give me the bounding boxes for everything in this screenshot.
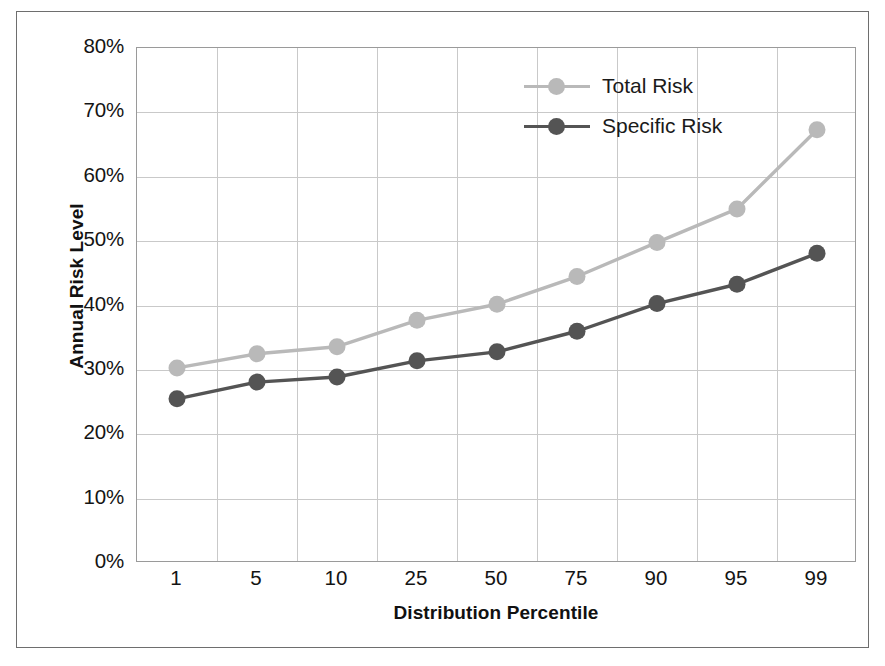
data-point-marker	[729, 200, 746, 217]
x-axis-tick-label: 5	[216, 566, 296, 590]
series-line	[177, 130, 817, 368]
x-axis-tick-label: 25	[376, 566, 456, 590]
data-point-marker	[649, 295, 666, 312]
data-point-marker	[249, 374, 266, 391]
y-axis-tick-label: 40%	[84, 292, 124, 316]
data-point-marker	[329, 368, 346, 385]
legend-label-specific-risk: Specific Risk	[602, 114, 722, 138]
legend-swatch-specific-risk	[524, 116, 590, 136]
series-line	[177, 253, 817, 398]
x-axis-tick-labels: 1510255075909599	[136, 566, 856, 600]
legend-swatch-total-risk	[524, 76, 590, 96]
data-point-marker	[809, 121, 826, 138]
x-axis-title: Distribution Percentile	[136, 602, 856, 624]
x-axis-tick-label: 90	[616, 566, 696, 590]
series-total-risk	[169, 121, 826, 376]
data-point-marker	[489, 343, 506, 360]
legend-entry-total-risk[interactable]: Total Risk	[524, 66, 784, 106]
y-axis-tick-label: 60%	[84, 163, 124, 187]
legend-label-total-risk: Total Risk	[602, 74, 693, 98]
series-specific-risk	[169, 245, 826, 407]
legend-entry-specific-risk[interactable]: Specific Risk	[524, 106, 784, 146]
data-point-marker	[809, 245, 826, 262]
y-axis-tick-label: 50%	[84, 227, 124, 251]
x-axis-tick-label: 95	[696, 566, 776, 590]
chart-figure: 0%10%20%30%40%50%60%70%80% 1510255075909…	[0, 0, 885, 666]
data-point-marker	[329, 338, 346, 355]
y-axis-tick-label: 80%	[84, 34, 124, 58]
x-axis-tick-label: 50	[456, 566, 536, 590]
data-point-marker	[569, 323, 586, 340]
legend-marker-icon	[548, 78, 565, 95]
data-point-marker	[569, 268, 586, 285]
data-point-marker	[489, 296, 506, 313]
data-point-marker	[169, 359, 186, 376]
x-axis-tick-label: 10	[296, 566, 376, 590]
x-axis-tick-label: 99	[776, 566, 856, 590]
y-axis-title: Annual Risk Level	[66, 146, 88, 426]
y-axis-tick-label: 30%	[84, 356, 124, 380]
y-axis-tick-label: 20%	[84, 420, 124, 444]
legend-marker-icon	[548, 118, 565, 135]
x-axis-tick-label: 1	[136, 566, 216, 590]
y-axis-tick-label: 0%	[95, 549, 124, 573]
data-point-marker	[249, 345, 266, 362]
data-point-marker	[649, 234, 666, 251]
data-point-marker	[169, 390, 186, 407]
chart-legend: Total Risk Specific Risk	[524, 66, 784, 146]
x-axis-tick-label: 75	[536, 566, 616, 590]
data-point-marker	[729, 276, 746, 293]
y-axis-tick-label: 70%	[84, 98, 124, 122]
data-point-marker	[409, 352, 426, 369]
y-axis-tick-label: 10%	[84, 485, 124, 509]
data-point-marker	[409, 312, 426, 329]
